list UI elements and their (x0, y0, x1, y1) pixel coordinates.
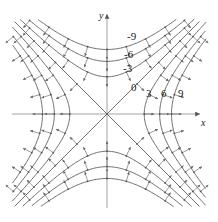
sample-point (64, 132, 66, 134)
contour-curve (172, 39, 207, 189)
gradient-vector (184, 192, 191, 199)
gradient-vector (43, 45, 49, 53)
sample-point (125, 169, 127, 171)
sample-point (31, 74, 33, 76)
sample-point (145, 167, 147, 169)
gradient-vector (30, 95, 40, 98)
sample-point (106, 178, 108, 180)
gradient-vector (165, 45, 171, 53)
sample-point (160, 74, 162, 76)
sample-point (67, 48, 69, 50)
sample-point (31, 152, 33, 154)
sample-point (87, 180, 89, 182)
sample-point (184, 199, 186, 201)
sample-point (48, 44, 50, 46)
gradient-vector (63, 171, 68, 180)
gradient-vector (85, 172, 88, 182)
sample-point (181, 74, 183, 76)
sample-point (52, 74, 54, 76)
gradient-vector (30, 131, 40, 134)
sample-point (48, 182, 50, 184)
gradient-vector (14, 185, 21, 192)
gradient-vector (33, 148, 42, 153)
gradient-vector (201, 37, 209, 43)
sample-point (67, 38, 69, 40)
contour-plot-canvas (0, 0, 218, 222)
gradient-vector (126, 161, 129, 170)
sample-point (106, 49, 108, 51)
contour-label-neg6: -6 (124, 49, 133, 60)
sample-point (87, 155, 89, 157)
sample-point (19, 55, 21, 57)
sample-point (125, 180, 127, 182)
sample-point (164, 182, 166, 184)
sample-point (67, 167, 69, 169)
gradient-vector (146, 160, 152, 168)
sample-point (125, 155, 127, 157)
gradient-vector (172, 75, 181, 80)
gradient-vector (201, 185, 209, 191)
contour-label-neg9: -9 (127, 31, 136, 42)
contour-plot-figure: -9 -6 -3 0 3 6 9 y x (0, 0, 218, 222)
gradient-vector (70, 137, 77, 144)
contour-curve (144, 22, 206, 205)
gradient-vector (48, 62, 55, 69)
contour-label-9: 9 (178, 88, 184, 99)
gradient-vector (172, 148, 181, 153)
sample-point (87, 57, 89, 59)
sample-point (106, 76, 108, 78)
gradient-vector (182, 148, 191, 153)
sample-point (33, 40, 35, 42)
contour-label-0: 0 (131, 82, 137, 93)
sample-point (67, 59, 69, 61)
gradient-vector (43, 27, 49, 35)
gradient-vector (149, 129, 158, 133)
sample-point (184, 27, 186, 29)
sample-point (164, 35, 166, 37)
gradient-vector (193, 185, 200, 192)
gradient-vector (146, 180, 151, 189)
gradient-vector (83, 72, 87, 81)
sample-point (50, 94, 52, 96)
sample-point (37, 171, 39, 173)
sample-point (87, 71, 89, 73)
sample-point (37, 55, 39, 57)
sample-point (48, 200, 50, 202)
sample-point (19, 171, 21, 173)
gradient-vector (41, 95, 50, 98)
sample-point (20, 36, 22, 38)
sample-point (67, 188, 69, 190)
gradient-vector (146, 49, 151, 58)
gradient-vector (33, 75, 42, 80)
gradient-vector (137, 137, 144, 144)
y-axis-label: y (99, 11, 103, 21)
gradient-vector (165, 192, 171, 200)
sample-point (160, 152, 162, 154)
sample-point (41, 152, 43, 154)
sample-point (33, 186, 35, 188)
sample-point (148, 132, 150, 134)
sample-point (136, 143, 138, 145)
sample-point (67, 178, 69, 180)
sample-point (171, 152, 173, 154)
sample-point (171, 74, 173, 76)
gradient-vector (43, 192, 49, 200)
sample-point (28, 171, 30, 173)
sample-point (193, 171, 195, 173)
sample-point (192, 36, 194, 38)
gradient-vector (6, 185, 14, 191)
gradient-vector (64, 39, 69, 48)
sample-point (145, 59, 147, 61)
gradient-vector (84, 58, 87, 67)
gradient-vector (56, 129, 65, 133)
sample-point (55, 62, 57, 64)
sample-point (42, 113, 44, 115)
x-axis-label: x (201, 118, 205, 128)
sample-point (41, 74, 43, 76)
gradient-vector (146, 60, 152, 68)
sample-point (39, 94, 41, 96)
gradient-vector (62, 160, 68, 168)
gradient-vector (176, 166, 184, 172)
sample-point (145, 48, 147, 50)
sample-point (158, 165, 160, 167)
